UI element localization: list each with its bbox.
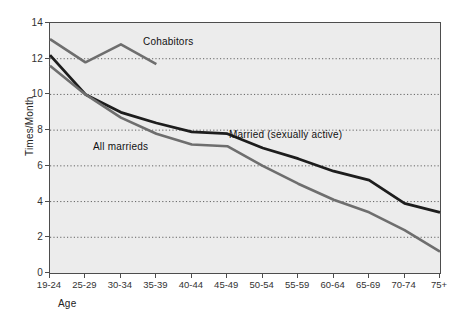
y-tick-label: 0 bbox=[21, 267, 43, 278]
y-tick-label: 6 bbox=[21, 159, 43, 170]
x-tick-mark bbox=[439, 273, 440, 278]
series-label-married-sexually-active: Married (sexually active) bbox=[229, 129, 342, 140]
x-tick-mark bbox=[84, 273, 85, 278]
x-axis-title: Age bbox=[58, 298, 76, 309]
y-tick-mark bbox=[45, 93, 49, 94]
x-tick-mark bbox=[368, 273, 369, 278]
y-tick-label: 4 bbox=[21, 195, 43, 206]
chart-figure: Times/Month Age 02468101214 19-2425-2930… bbox=[0, 0, 472, 328]
y-tick-mark bbox=[45, 22, 49, 23]
series-line bbox=[50, 66, 440, 252]
series-line bbox=[50, 39, 156, 64]
x-tick-mark bbox=[120, 273, 121, 278]
y-tick-mark bbox=[45, 165, 49, 166]
y-tick-mark bbox=[45, 129, 49, 130]
x-tick-label: 30-34 bbox=[108, 279, 132, 290]
x-tick-mark bbox=[191, 273, 192, 278]
y-tick-label: 10 bbox=[21, 88, 43, 99]
x-tick-mark bbox=[297, 273, 298, 278]
y-tick-mark bbox=[45, 236, 49, 237]
series-label-cohabitors: Cohabitors bbox=[143, 36, 193, 47]
x-tick-label: 75+ bbox=[431, 279, 447, 290]
series-label-all-marrieds: All marrieds bbox=[93, 141, 148, 152]
y-tick-label: 2 bbox=[21, 231, 43, 242]
x-tick-label: 19-24 bbox=[37, 279, 61, 290]
x-tick-label: 60-64 bbox=[320, 279, 344, 290]
x-tick-label: 50-54 bbox=[250, 279, 274, 290]
x-tick-label: 40-44 bbox=[179, 279, 203, 290]
x-tick-label: 65-69 bbox=[356, 279, 380, 290]
x-tick-mark bbox=[333, 273, 334, 278]
y-tick-label: 14 bbox=[21, 17, 43, 28]
x-tick-label: 45-49 bbox=[214, 279, 238, 290]
x-tick-mark bbox=[49, 273, 50, 278]
x-tick-label: 35-39 bbox=[143, 279, 167, 290]
y-tick-mark bbox=[45, 201, 49, 202]
x-tick-label: 70-74 bbox=[391, 279, 415, 290]
y-tick-label: 8 bbox=[21, 124, 43, 135]
x-tick-label: 55-59 bbox=[285, 279, 309, 290]
y-tick-label: 12 bbox=[21, 52, 43, 63]
y-tick-mark bbox=[45, 58, 49, 59]
x-tick-label: 25-29 bbox=[72, 279, 96, 290]
x-tick-mark bbox=[155, 273, 156, 278]
x-tick-mark bbox=[226, 273, 227, 278]
x-tick-mark bbox=[262, 273, 263, 278]
x-tick-mark bbox=[404, 273, 405, 278]
